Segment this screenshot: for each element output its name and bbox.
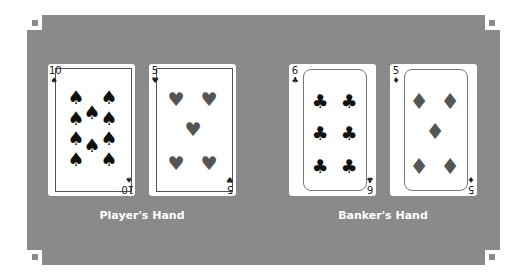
heart-icon: ♥: [183, 120, 203, 139]
heart-icon: ♥: [166, 90, 186, 109]
player-card-1: 10♠ 10♠ ♠ ♠ ♠ ♠ ♠ ♠ ♠ ♠ ♠ ♠: [48, 64, 135, 196]
card-index-top: 5♥: [150, 66, 160, 85]
club-icon: ♣: [339, 157, 359, 176]
heart-icon: ♥: [199, 90, 219, 109]
club-icon: ♣: [339, 124, 359, 143]
corner-notch-top-left: [27, 15, 42, 30]
heart-icon: ♥: [166, 154, 186, 173]
card-index-top: 10♠: [49, 66, 59, 85]
diamond-icon: ♦: [425, 122, 445, 141]
spade-icon: ♠: [99, 109, 119, 128]
diamond-icon: ♦: [409, 157, 429, 176]
club-icon: ♣: [310, 124, 330, 143]
club-icon: ♣: [310, 157, 330, 176]
banker-hand-label: Banker's Hand: [289, 209, 477, 222]
diamond-icon: ♦: [440, 92, 460, 111]
card-index-top: 5♦: [391, 66, 401, 85]
card-index-bottom: 5♥: [225, 175, 235, 194]
card-index-bottom: 10♠: [124, 175, 134, 194]
corner-notch-top-right: [485, 15, 500, 30]
card-index-top: 6♣: [290, 66, 300, 85]
corner-notch-bottom-left: [27, 250, 42, 265]
banker-card-1: 6♣ 6♣ ♣ ♣ ♣ ♣ ♣ ♣: [289, 64, 376, 196]
card-index-bottom: 5♦: [466, 175, 476, 194]
banker-card-2: 5♦ 5♦ ♦ ♦ ♦ ♦ ♦: [390, 64, 477, 196]
heart-icon: ♥: [199, 154, 219, 173]
card-index-bottom: 6♣: [365, 175, 375, 194]
player-hand-label: Player's Hand: [48, 209, 236, 222]
club-icon: ♣: [310, 92, 330, 111]
spade-icon: ♠: [99, 129, 119, 148]
player-card-2: 5♥ 5♥ ♥ ♥ ♥ ♥ ♥: [149, 64, 236, 196]
diamond-icon: ♦: [409, 92, 429, 111]
spade-icon: ♠: [99, 150, 119, 169]
spade-icon: ♠: [66, 150, 86, 169]
corner-notch-bottom-right: [485, 250, 500, 265]
baccarat-table: 10♠ 10♠ ♠ ♠ ♠ ♠ ♠ ♠ ♠ ♠ ♠ ♠ 5♥ 5♥ ♥ ♥ ♥ …: [27, 15, 500, 265]
diamond-icon: ♦: [440, 157, 460, 176]
spade-icon: ♠: [66, 109, 86, 128]
club-icon: ♣: [339, 92, 359, 111]
spade-icon: ♠: [99, 88, 119, 107]
